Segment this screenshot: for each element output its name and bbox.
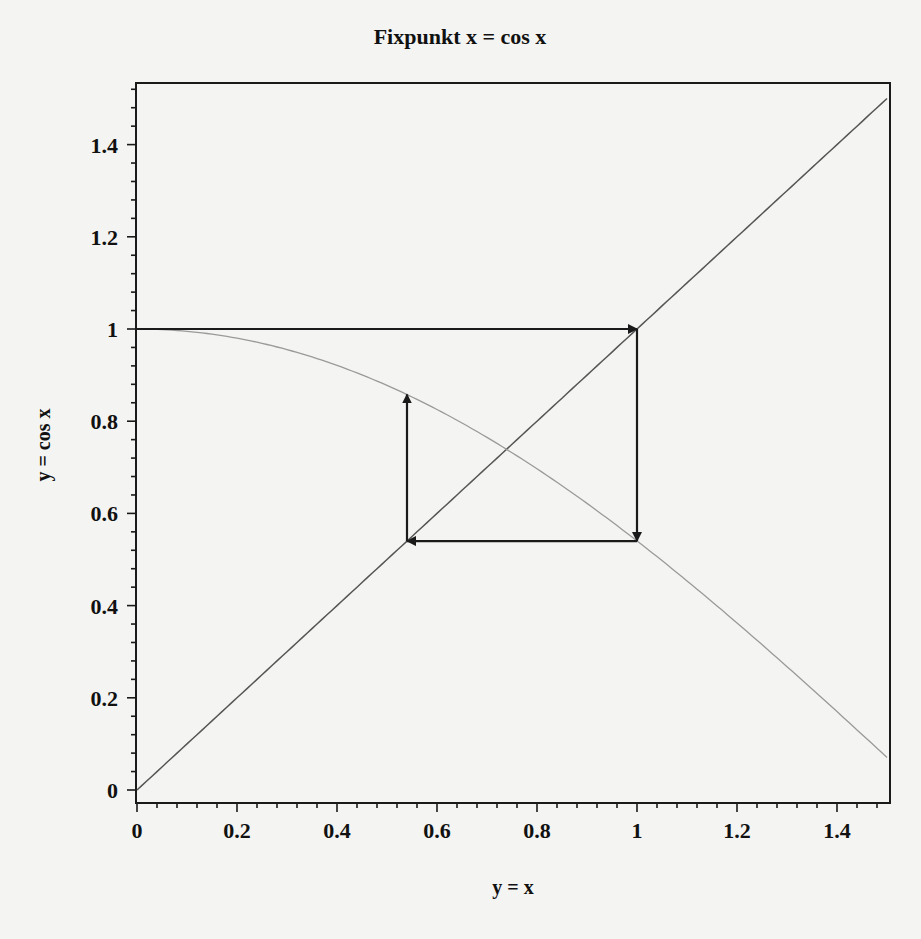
x-tick-label: 0.6 xyxy=(423,818,451,843)
x-axis: 00.20.40.60.811.21.4 xyxy=(132,803,878,843)
y-tick-label: 0.6 xyxy=(91,501,119,526)
x-tick-label: 1 xyxy=(632,818,643,843)
x-tick-label: 0.2 xyxy=(223,818,251,843)
x-axis-label: y = x xyxy=(492,876,533,899)
iteration-arrows xyxy=(137,329,637,541)
x-tick-label: 1.4 xyxy=(823,818,851,843)
fixpoint-chart: Fixpunkt x = cos x 00.20.40.60.811.21.4 … xyxy=(0,0,921,939)
y-tick-label: 1.2 xyxy=(91,225,119,250)
y-tick-label: 0.8 xyxy=(91,409,119,434)
y-tick-label: 0.2 xyxy=(91,686,119,711)
cos-curve xyxy=(137,329,887,757)
x-tick-label: 0.8 xyxy=(523,818,551,843)
y-axis: 00.20.40.60.811.21.4 xyxy=(91,89,137,803)
chart-title: Fixpunkt x = cos x xyxy=(374,24,547,49)
x-tick-label: 0 xyxy=(132,818,143,843)
x-tick-label: 0.4 xyxy=(323,818,351,843)
series-layer xyxy=(137,99,887,791)
y-tick-label: 1 xyxy=(107,317,118,342)
y-tick-label: 0 xyxy=(107,778,118,803)
identity-line xyxy=(137,99,887,791)
y-axis-label: y = cos x xyxy=(32,408,55,481)
y-tick-label: 1.4 xyxy=(91,133,119,158)
y-tick-label: 0.4 xyxy=(91,594,119,619)
x-tick-label: 1.2 xyxy=(723,818,751,843)
